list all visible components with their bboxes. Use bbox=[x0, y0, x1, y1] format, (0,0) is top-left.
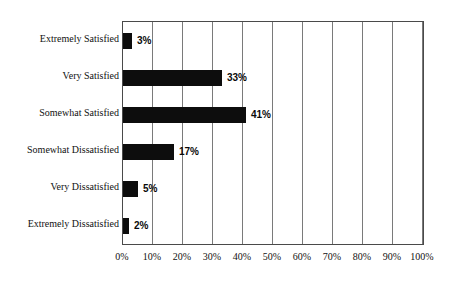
x-tick-label: 0% bbox=[115, 252, 128, 262]
bar-value-label: 2% bbox=[134, 221, 148, 231]
x-tick-label: 70% bbox=[323, 252, 341, 262]
bar-row: 5% bbox=[123, 181, 423, 197]
category-label: Somewhat Satisfied bbox=[0, 108, 119, 118]
bar bbox=[123, 70, 222, 86]
bar-row: 17% bbox=[123, 144, 423, 160]
x-tick-label: 50% bbox=[263, 252, 281, 262]
bars-layer: 3%33%41%17%5%2% bbox=[123, 22, 423, 244]
category-axis: Extremely SatisfiedVery SatisfiedSomewha… bbox=[0, 21, 119, 245]
bar-row: 41% bbox=[123, 107, 423, 123]
x-tick-label: 100% bbox=[410, 252, 433, 262]
x-tick-label: 80% bbox=[353, 252, 371, 262]
bar bbox=[123, 144, 174, 160]
x-tick-label: 90% bbox=[383, 252, 401, 262]
x-axis-tick-labels: 0%10%20%30%40%50%60%70%80%90%100% bbox=[122, 252, 424, 268]
x-tick-label: 20% bbox=[173, 252, 191, 262]
bar-value-label: 3% bbox=[137, 36, 151, 46]
x-tick-label: 40% bbox=[233, 252, 251, 262]
bar-value-label: 5% bbox=[143, 184, 157, 194]
bar bbox=[123, 218, 129, 234]
x-tick-label: 30% bbox=[203, 252, 221, 262]
category-label: Very Satisfied bbox=[0, 71, 119, 81]
bar bbox=[123, 33, 132, 49]
x-tick-label: 60% bbox=[293, 252, 311, 262]
plot-area: 3%33%41%17%5%2% bbox=[122, 21, 424, 245]
category-label: Somewhat Dissatisfied bbox=[0, 145, 119, 155]
category-label: Extremely Satisfied bbox=[0, 34, 119, 44]
category-label: Extremely Dissatisfied bbox=[0, 219, 119, 229]
bar bbox=[123, 107, 246, 123]
bar bbox=[123, 181, 138, 197]
bar-value-label: 17% bbox=[179, 147, 199, 157]
bar-value-label: 33% bbox=[227, 73, 247, 83]
bar-chart-figure: Extremely SatisfiedVery SatisfiedSomewha… bbox=[0, 0, 450, 283]
bar-row: 33% bbox=[123, 70, 423, 86]
bar-row: 2% bbox=[123, 218, 423, 234]
category-label: Very Dissatisfied bbox=[0, 182, 119, 192]
x-tick-label: 10% bbox=[143, 252, 161, 262]
bar-value-label: 41% bbox=[251, 110, 271, 120]
bar-row: 3% bbox=[123, 33, 423, 49]
